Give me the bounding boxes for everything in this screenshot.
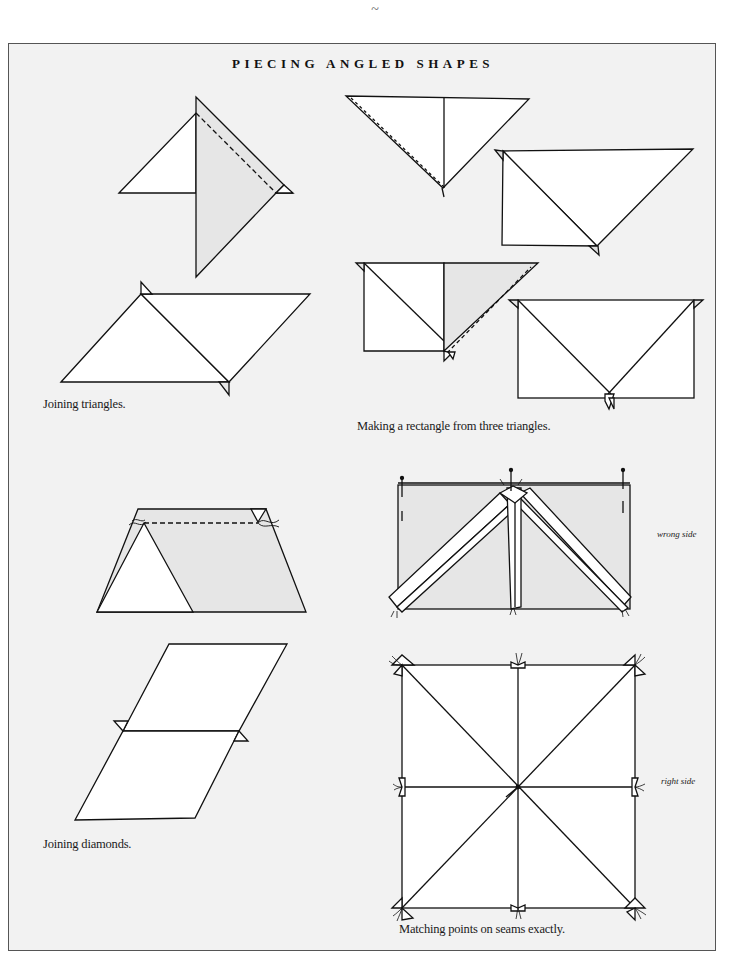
illustration-panel: PIECING ANGLED SHAPES — [8, 43, 716, 951]
caption-joining-diamonds: Joining diamonds. — [43, 837, 131, 852]
figure-rectangle-step4 — [509, 300, 703, 409]
figure-joining-triangles-step2 — [61, 282, 310, 395]
figure-trapezoid-seam — [97, 509, 306, 612]
figure-rectangle-step1 — [346, 96, 529, 197]
figure-wrong-side — [389, 469, 631, 619]
diagram-canvas — [9, 44, 717, 952]
label-wrong-side: wrong side — [657, 529, 696, 539]
caption-joining-triangles: Joining triangles. — [43, 397, 126, 412]
label-right-side: right side — [661, 776, 695, 786]
figure-joining-diamonds — [75, 644, 287, 820]
caption-matching-points: Matching points on seams exactly. — [399, 922, 565, 937]
figure-rectangle-step3 — [356, 263, 538, 361]
page-top-mark: ~ — [0, 2, 750, 18]
figure-matching-points — [389, 653, 646, 921]
caption-rectangle-from-triangles: Making a rectangle from three triangles. — [357, 419, 550, 434]
figure-rectangle-step2 — [495, 149, 693, 255]
figure-joining-triangles-step1 — [119, 97, 293, 277]
